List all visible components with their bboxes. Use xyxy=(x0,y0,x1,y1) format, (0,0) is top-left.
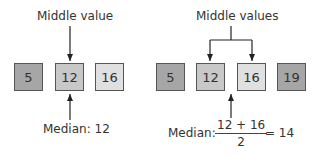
median-left-label: Median: 12 xyxy=(43,122,110,136)
value-box-right-1: 5 xyxy=(156,63,185,91)
value-box-left-3: 16 xyxy=(95,63,124,91)
middle-values-label: Middle values xyxy=(196,9,278,23)
value-box-right-3: 16 xyxy=(237,63,266,91)
median-right-prefix: Median: xyxy=(168,126,216,140)
fraction-denominator: 2 xyxy=(237,134,245,149)
fraction-numerator: 12 + 16 xyxy=(215,118,267,134)
median-fraction: 12 + 16 2 xyxy=(215,118,267,149)
value-box-right-4: 19 xyxy=(277,63,306,91)
middle-value-label: Middle value xyxy=(37,9,113,23)
value-box-left-1: 5 xyxy=(14,63,43,91)
value-box-right-2: 12 xyxy=(196,63,225,91)
median-result: = 14 xyxy=(265,126,294,140)
value-box-left-2: 12 xyxy=(55,63,84,91)
